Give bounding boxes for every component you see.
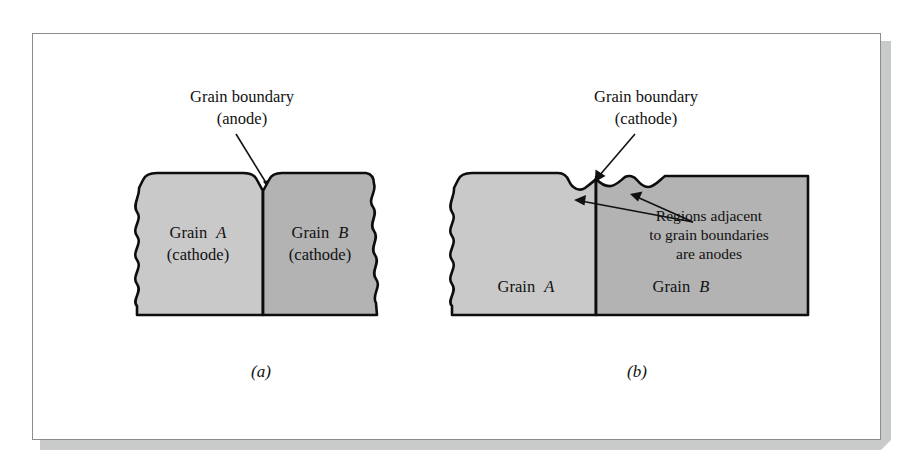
panel-b-grain-b-word: Grain bbox=[653, 277, 691, 296]
panel-a-callout-line2: (anode) bbox=[217, 109, 267, 128]
figure-frame: Grain boundary (anode) Grain A (cathode) bbox=[32, 33, 881, 440]
panel-b-sublabel: (b) bbox=[627, 362, 647, 381]
panel-b-annotation-line3: are anodes bbox=[676, 245, 742, 262]
panel-b-callout-line1: Grain boundary bbox=[594, 87, 699, 106]
panel-a-grain-a-label: Grain A bbox=[170, 223, 228, 242]
panel-b-grain-b-label: Grain B bbox=[653, 277, 710, 296]
panel-b-grain-a-letter: A bbox=[543, 277, 555, 296]
panel-b-leader-line bbox=[599, 134, 635, 176]
panel-a: Grain boundary (anode) Grain A (cathode) bbox=[135, 87, 378, 381]
panel-a-grain-b-sublabel: (cathode) bbox=[289, 245, 351, 264]
panel-a-grain-a-letter: A bbox=[215, 223, 227, 242]
panel-a-grain-a-sublabel: (cathode) bbox=[167, 245, 229, 264]
panel-a-callout-line1: Grain boundary bbox=[190, 87, 295, 106]
figure-canvas: Grain boundary (anode) Grain A (cathode) bbox=[33, 34, 882, 441]
panel-b-grain-b-letter: B bbox=[699, 277, 709, 296]
panel-a-grain-b-shape bbox=[263, 173, 378, 315]
panel-b-grain-a-label: Grain A bbox=[498, 277, 556, 296]
panel-a-grain-a-shape bbox=[135, 173, 263, 315]
panel-b-annotation-line2: to grain boundaries bbox=[649, 226, 769, 243]
panel-a-grain-b-word: Grain bbox=[292, 223, 330, 242]
panel-a-grain-a-word: Grain bbox=[170, 223, 208, 242]
panel-a-grain-b-label: Grain B bbox=[292, 223, 349, 242]
panel-b-callout-line2: (cathode) bbox=[615, 109, 677, 128]
panel-b: Grain boundary (cathode) bbox=[450, 87, 808, 381]
panel-a-grain-b-letter: B bbox=[338, 223, 348, 242]
panel-a-sublabel: (a) bbox=[251, 362, 271, 381]
panel-b-annotation-line1: Regions adjacent bbox=[656, 207, 763, 224]
panel-b-grain-a-word: Grain bbox=[498, 277, 536, 296]
figure-page: Grain boundary (anode) Grain A (cathode) bbox=[0, 0, 903, 475]
